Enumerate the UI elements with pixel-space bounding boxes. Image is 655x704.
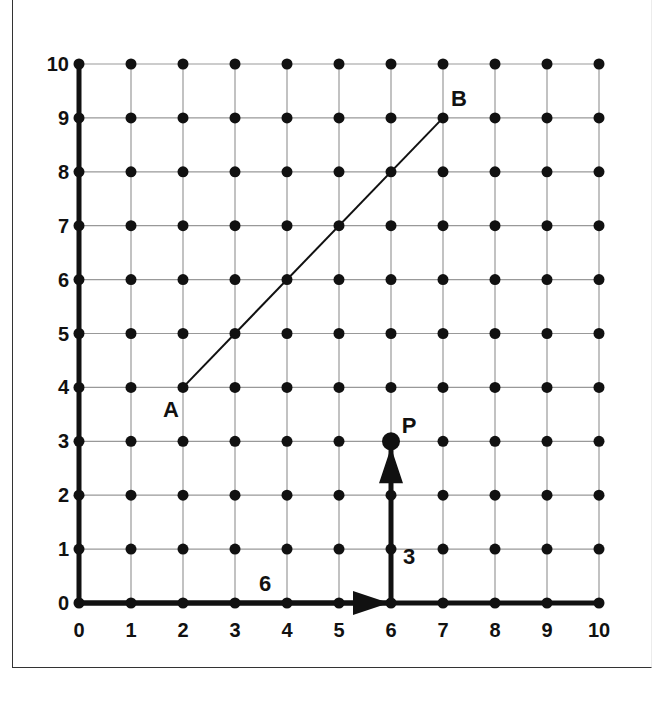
lattice-dot — [282, 328, 293, 339]
lattice-dot — [438, 490, 449, 501]
lattice-dot — [386, 598, 397, 609]
lattice-dot — [282, 112, 293, 123]
lattice-dot — [438, 166, 449, 177]
point-label-p: P — [402, 413, 417, 438]
y-tick-label: 2 — [58, 484, 69, 506]
segment-layer — [183, 118, 443, 388]
y-tick-label: 8 — [58, 161, 69, 183]
lattice-dot — [438, 274, 449, 285]
lattice-dot — [126, 274, 137, 285]
x-tick-label: 9 — [541, 619, 552, 641]
lattice-dot — [438, 328, 449, 339]
lattice-dot — [334, 598, 345, 609]
lattice-dot — [594, 382, 605, 393]
lattice-dot — [334, 328, 345, 339]
lattice-dot — [438, 598, 449, 609]
lattice-dot — [490, 544, 501, 555]
lattice-dot — [438, 382, 449, 393]
lattice-dot — [126, 490, 137, 501]
lattice-dot — [282, 436, 293, 447]
lattice-dot — [126, 598, 137, 609]
lattice-dot — [334, 166, 345, 177]
x-tick-label: 1 — [125, 619, 136, 641]
lattice-dot — [438, 59, 449, 70]
y-tick-label: 3 — [58, 430, 69, 452]
lattice-dot — [334, 274, 345, 285]
lattice-dot — [594, 436, 605, 447]
arrowhead-right-icon — [353, 591, 389, 615]
lattice-dot — [386, 112, 397, 123]
lattice-dot — [126, 166, 137, 177]
lattice-dot — [282, 220, 293, 231]
lattice-dot — [386, 490, 397, 501]
point-label-a: A — [163, 397, 179, 422]
lattice-dot — [542, 166, 553, 177]
lattice-dot — [594, 598, 605, 609]
lattice-dot — [178, 436, 189, 447]
lattice-dot — [334, 59, 345, 70]
lattice-dot — [490, 382, 501, 393]
lattice-dot — [178, 544, 189, 555]
lattice-dot — [594, 328, 605, 339]
lattice-dot — [178, 274, 189, 285]
lattice-dot — [490, 166, 501, 177]
lattice-dot — [230, 274, 241, 285]
lattice-dot — [542, 59, 553, 70]
lattice-dot — [178, 59, 189, 70]
lattice-dot — [334, 544, 345, 555]
lattice-dot — [542, 220, 553, 231]
x-tick-label: 5 — [333, 619, 344, 641]
lattice-dot — [594, 59, 605, 70]
x-tick-label: 8 — [489, 619, 500, 641]
lattice-dot — [126, 436, 137, 447]
y-axis-tick-labels: 012345678910 — [47, 53, 70, 614]
x-tick-label: 4 — [281, 619, 293, 641]
lattice-dot — [334, 112, 345, 123]
lattice-dot — [438, 112, 449, 123]
lattice-dot — [490, 274, 501, 285]
lattice-dot — [542, 274, 553, 285]
lattice-dot — [282, 544, 293, 555]
lattice-dot — [230, 328, 241, 339]
point-p-dot — [382, 432, 400, 450]
lattice-dot — [126, 328, 137, 339]
lattice-dot — [438, 220, 449, 231]
lattice-dot — [74, 59, 85, 70]
y-tick-label: 9 — [58, 107, 69, 129]
lattice-dot — [74, 166, 85, 177]
y-tick-label: 10 — [47, 53, 69, 75]
lattice-dot — [74, 274, 85, 285]
lattice-dot — [542, 490, 553, 501]
x-tick-label: 7 — [437, 619, 448, 641]
y-tick-label: 4 — [58, 376, 70, 398]
lattice-dot — [282, 166, 293, 177]
lattice-dot — [542, 436, 553, 447]
lattice-dot — [594, 112, 605, 123]
lattice-dot — [334, 220, 345, 231]
lattice-dot — [230, 112, 241, 123]
lattice-dot — [230, 59, 241, 70]
lattice-dot — [490, 220, 501, 231]
lattice-dot — [230, 544, 241, 555]
lattice-dot — [282, 274, 293, 285]
lattice-dot — [74, 598, 85, 609]
lattice-dot — [490, 112, 501, 123]
coordinate-grid-diagram: 012345678910 012345678910 63ABP — [0, 0, 655, 704]
lattice-dot — [386, 328, 397, 339]
y-tick-label: 1 — [58, 538, 69, 560]
lattice-dot — [282, 598, 293, 609]
lattice-dot — [594, 274, 605, 285]
vector-layer — [79, 441, 403, 615]
lattice-dot — [490, 436, 501, 447]
lattice-dot — [178, 220, 189, 231]
vector-length-label: 6 — [259, 571, 271, 596]
lattice-dot — [334, 436, 345, 447]
arrowhead-up-icon — [379, 447, 403, 483]
lattice-dot — [230, 382, 241, 393]
lattice-dot — [126, 220, 137, 231]
lattice-dot — [334, 490, 345, 501]
lattice-dot — [438, 544, 449, 555]
x-tick-label: 0 — [73, 619, 84, 641]
lattice-dot — [74, 382, 85, 393]
lattice-dot — [178, 382, 189, 393]
